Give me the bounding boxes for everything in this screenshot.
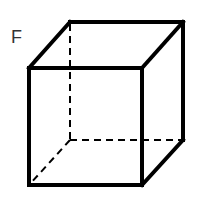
- hidden-edge-bottom-left-diagonal: [30, 140, 70, 184]
- vertex-label: F: [11, 28, 22, 46]
- cube-diagram: F: [0, 0, 198, 197]
- edge-top-right-diagonal: [142, 22, 183, 68]
- edge-bottom-right-diagonal: [142, 140, 183, 185]
- edge-top-left-diagonal: [29, 22, 70, 68]
- cube-drawing: [0, 0, 198, 197]
